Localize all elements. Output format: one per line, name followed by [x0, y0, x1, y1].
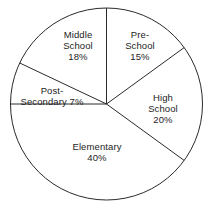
pie-chart-figure: - - - Middle School 18% Pre- School 15% …	[0, 0, 212, 212]
pie-chart-svg	[0, 0, 212, 212]
